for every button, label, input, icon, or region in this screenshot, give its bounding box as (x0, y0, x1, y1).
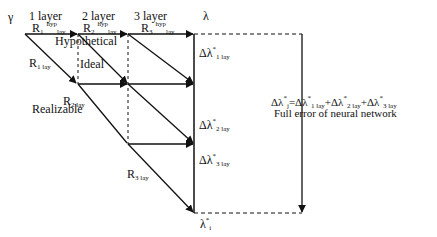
diag-3 (128, 34, 193, 83)
real-diag-2 (78, 84, 127, 143)
lambda-header: λ (203, 10, 209, 22)
delta-lambda-1-label: Δλ*1 lay (199, 46, 230, 61)
gamma-label: γ (8, 11, 13, 23)
ideal-label: Ideal (80, 58, 104, 70)
full-error-caption: Full error of neural network (274, 108, 397, 119)
hypothetical-label: Hypothetical (55, 35, 117, 47)
r3-real-label: R3 lay (127, 168, 149, 182)
lambda-star-i-label: λ*i (200, 217, 211, 232)
delta-lambda-2-label: Δλ*2 lay (199, 118, 230, 133)
r1-real-label: R1 lay (29, 57, 51, 71)
delta-lambda-3-label: Δλ*3 lay (199, 153, 230, 168)
r3-hyp-label: R3hyplay (141, 21, 175, 36)
diag-2b (128, 84, 193, 143)
r2-real-label: R2 lay (63, 95, 85, 109)
